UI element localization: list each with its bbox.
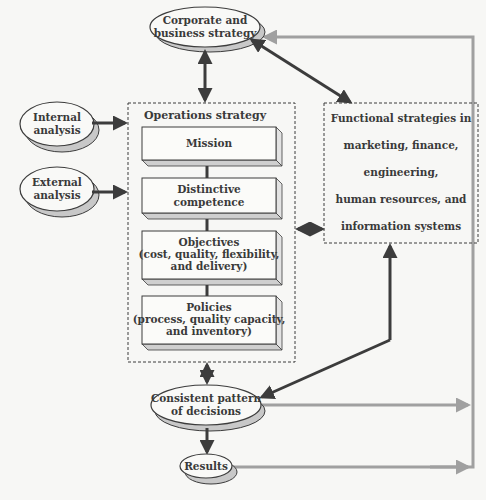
results-node: Results <box>180 454 237 484</box>
functional-line1: Functional strategies in <box>331 112 472 124</box>
operations-title: Operations strategy <box>144 109 267 122</box>
distinctive-line1: Distinctive <box>177 183 241 195</box>
corporate-label-line2: business strategy <box>154 27 258 39</box>
mission-box: Mission <box>142 127 282 166</box>
functional-line5: information systems <box>341 220 461 232</box>
distinctive-line2: competence <box>174 196 245 208</box>
functional-line3: engineering, <box>364 166 439 178</box>
operations-strategy-box: Operations strategy Mission Distinctive … <box>128 103 295 362</box>
external-label-line2: analysis <box>33 189 80 201</box>
functional-line2: marketing, finance, <box>344 139 459 151</box>
objectives-line3: and delivery) <box>171 260 248 272</box>
corporate-functional-arrow <box>252 40 350 102</box>
functional-line4: human resources, and <box>336 193 467 205</box>
external-analysis-node: External analysis <box>20 167 99 217</box>
mission-label: Mission <box>186 137 232 149</box>
consistent-line1: Consistent pattern <box>151 392 262 404</box>
objectives-line1: Objectives <box>179 236 240 248</box>
distinctive-competence-box: Distinctive competence <box>142 178 282 219</box>
corporate-strategy-node: Corporate and business strategy <box>150 7 265 52</box>
objectives-box: Objectives (cost, quality, flexibility, … <box>139 231 282 285</box>
policies-line1: Policies <box>186 301 232 313</box>
policies-box: Policies (process, quality capacity, and… <box>133 296 286 350</box>
policies-line2: (process, quality capacity, <box>133 313 286 325</box>
external-label-line1: External <box>32 176 82 188</box>
policies-line3: and inventory) <box>166 325 252 337</box>
objectives-line2: (cost, quality, flexibility, <box>139 248 280 260</box>
internal-label-line1: Internal <box>33 111 81 123</box>
operations-strategy-diagram: Corporate and business strategy Internal… <box>0 0 486 500</box>
internal-analysis-node: Internal analysis <box>20 102 99 152</box>
consistent-pattern-node: Consistent pattern of decisions <box>151 385 265 431</box>
consistent-line2: of decisions <box>171 405 241 417</box>
internal-label-line2: analysis <box>33 124 80 136</box>
functional-strategies-box: Functional strategies in marketing, fina… <box>324 103 478 243</box>
results-label: Results <box>184 460 228 472</box>
corporate-label-line1: Corporate and <box>163 14 248 26</box>
